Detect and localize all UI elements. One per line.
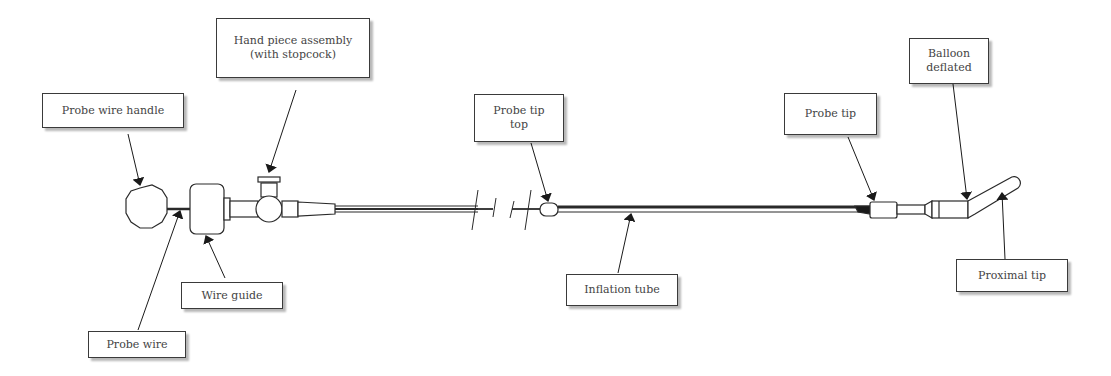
arrow-probe-tip [848,137,874,200]
label-inflation-tube: Inflation tube [566,274,678,306]
arrow-proximal-tip [1002,193,1005,259]
proximal-tip-shape [968,177,1020,218]
arrow-probe-wire [138,211,180,330]
label-balloon-deflated: Balloon deflated [909,38,989,84]
label-hand-piece-assembly: Hand piece assembly (with stopcock) [216,18,370,78]
label-wire-guide: Wire guide [181,282,283,309]
label-proximal-tip: Proximal tip [956,259,1068,292]
arrow-inflation-tube [618,214,631,273]
probe-tip-top-shape [540,203,558,216]
probe-wire-handle-shape [126,185,167,228]
arrow-wire-guide [206,236,225,278]
wire-guide-shape [190,184,224,234]
arrow-hand-piece [269,90,296,172]
probe-tip-shape [870,202,897,218]
arrow-probe-wire-handle [128,134,140,185]
stopcock-shape [261,183,277,197]
hand-piece-valve-shape [256,196,282,222]
balloon-shape [932,201,968,218]
arrow-balloon [953,84,967,199]
label-probe-wire: Probe wire [88,331,186,358]
arrow-probe-tip-top [531,143,548,201]
label-probe-wire-handle: Probe wire handle [42,93,184,128]
label-probe-tip-top: Probe tip top [474,94,564,142]
label-probe-tip: Probe tip [784,93,877,135]
